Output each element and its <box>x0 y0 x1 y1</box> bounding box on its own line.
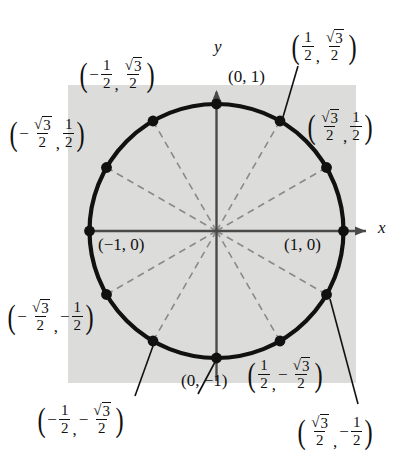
radical-group: √3 <box>290 358 313 374</box>
radical-symbol: √ <box>311 414 319 430</box>
unit-circle-canvas <box>0 0 412 467</box>
lparen-glyph: ( <box>292 33 300 61</box>
radicand: 3 <box>320 414 330 431</box>
unit-circle-figure: y x (0, 1) (0, −1) (−1, 0) (1, 0) ( − 1 … <box>0 0 412 467</box>
label-sqrt3-half-neg-half: ( √3 2 , − 1 2 ) <box>296 415 375 448</box>
fraction-one-half: 1 2 <box>349 110 363 143</box>
fraction-denominator: 2 <box>59 419 71 436</box>
fraction-denominator: 2 <box>96 419 108 436</box>
radicand: 3 <box>330 109 340 126</box>
minus-glyph: − <box>60 308 71 325</box>
radical-group: √3 <box>323 30 346 46</box>
radical-group: √3 <box>29 300 52 316</box>
lparen-glyph: ( <box>80 61 88 89</box>
point-180deg <box>84 226 95 237</box>
fraction-denominator: 2 <box>351 431 363 448</box>
lparen-glyph: ( <box>10 120 18 148</box>
point-120deg <box>148 116 159 127</box>
rparen-glyph: ) <box>364 113 372 141</box>
fraction-numerator: 1 <box>72 300 84 316</box>
fraction-sqrt3-over-2: √3 2 <box>322 30 347 63</box>
fraction-sqrt3-over-2: √3 2 <box>89 403 114 436</box>
fraction-denominator: 2 <box>37 133 49 150</box>
rparen-glyph: ) <box>348 33 356 61</box>
label-neg-sqrt3-half-half: ( − √3 2 , 1 2 ) <box>8 117 87 150</box>
fraction-denominator: 2 <box>127 74 139 91</box>
fraction-denominator: 2 <box>350 126 362 143</box>
fraction-one-half: 1 2 <box>58 403 72 436</box>
fraction-denominator: 2 <box>295 374 307 391</box>
comma-glyph: , <box>271 376 278 393</box>
fraction-denominator: 2 <box>63 133 75 150</box>
label-sqrt3-half-half: ( √3 2 , 1 2 ) <box>306 110 374 143</box>
fraction-numerator: 1 <box>59 403 71 419</box>
radicand: 3 <box>334 29 344 46</box>
point-240deg <box>148 336 159 347</box>
minus-glyph: − <box>339 423 350 440</box>
label-0-1: (0, 1) <box>228 68 265 85</box>
x-axis-label: x <box>378 219 386 236</box>
label-1-0: (1, 0) <box>284 236 321 253</box>
lparen-glyph: ( <box>308 113 316 141</box>
fraction-sqrt3-over-2: √3 2 <box>121 58 146 91</box>
label-half-sqrt3-half: ( 1 2 , √3 2 ) <box>290 30 358 63</box>
fraction-numerator: 1 <box>258 358 270 374</box>
lparen-glyph: ( <box>38 406 46 434</box>
minus-glyph: − <box>79 411 90 428</box>
radicand: 3 <box>42 116 52 133</box>
point-150deg <box>101 162 112 173</box>
point-30deg <box>321 162 332 173</box>
rparen-glyph: ) <box>77 120 85 148</box>
label-neg-half-neg-sqrt3-half: ( − 1 2 , − √3 2 ) <box>36 403 125 436</box>
comma-glyph: , <box>113 76 120 93</box>
comma-glyph: , <box>342 128 349 145</box>
radicand: 3 <box>40 299 50 316</box>
radical-group: √3 <box>31 117 54 133</box>
radical-symbol: √ <box>32 299 40 315</box>
label-half-neg-sqrt3-half: ( 1 2 , − √3 2 ) <box>246 358 325 391</box>
fraction-one-half: 1 2 <box>100 58 114 91</box>
minus-glyph: − <box>47 411 58 428</box>
rparen-glyph: ) <box>86 303 94 331</box>
fraction-numerator: 1 <box>101 58 113 74</box>
radicand: 3 <box>102 402 112 419</box>
radicand: 3 <box>301 357 311 374</box>
rparen-glyph: ) <box>147 61 155 89</box>
fraction-denominator: 2 <box>324 126 336 143</box>
point-210deg <box>101 289 112 300</box>
fraction-denominator: 2 <box>35 316 47 333</box>
point-60deg <box>275 116 286 127</box>
y-axis-label: y <box>214 38 222 55</box>
rparen-glyph: ) <box>365 418 373 446</box>
radical-group: √3 <box>318 110 341 126</box>
fraction-sqrt3-over-2: √3 2 <box>289 358 314 391</box>
lparen-glyph: ( <box>248 361 256 389</box>
radical-group: √3 <box>122 58 145 74</box>
label-neg1-0: (−1, 0) <box>98 236 144 253</box>
comma-glyph: , <box>53 318 60 335</box>
fraction-sqrt3-over-2: √3 2 <box>30 117 55 150</box>
label-0-neg1: (0, −1) <box>181 372 227 389</box>
point-300deg <box>275 336 286 347</box>
fraction-one-half: 1 2 <box>350 415 364 448</box>
fraction-numerator: 1 <box>351 415 363 431</box>
radical-symbol: √ <box>293 357 301 373</box>
fraction-one-half: 1 2 <box>71 300 85 333</box>
rparen-glyph: ) <box>315 361 323 389</box>
fraction-sqrt3-over-2: √3 2 <box>28 300 53 333</box>
fraction-sqrt3-over-2: √3 2 <box>307 415 332 448</box>
minus-glyph: − <box>278 366 289 383</box>
lparen-glyph: ( <box>8 303 16 331</box>
fraction-one-half: 1 2 <box>301 30 315 63</box>
radical-group: √3 <box>308 415 331 431</box>
minus-glyph: − <box>17 308 28 325</box>
comma-glyph: , <box>71 421 78 438</box>
radicand: 3 <box>133 57 143 74</box>
point-90deg <box>211 99 222 110</box>
fraction-numerator: 1 <box>302 30 314 46</box>
lparen-glyph: ( <box>298 418 306 446</box>
minus-glyph: − <box>19 125 30 142</box>
fraction-denominator: 2 <box>329 46 341 63</box>
radical-symbol: √ <box>34 116 42 132</box>
fraction-numerator: 1 <box>350 110 362 126</box>
